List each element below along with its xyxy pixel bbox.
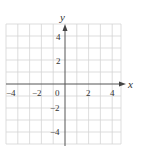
x-axis-label: x [127, 78, 133, 90]
x-axis-arrow-icon [119, 82, 126, 87]
x-tick-labels: −4 −2 0 2 4 [6, 88, 115, 98]
y-tick-label: −4 [50, 127, 60, 137]
x-tick-label: −4 [6, 88, 16, 98]
y-tick-label: −2 [50, 103, 60, 113]
x-tick-label: 0 [55, 88, 60, 98]
x-tick-label: −2 [32, 88, 42, 98]
y-axis-arrow-icon [63, 24, 68, 31]
coordinate-grid-chart: x y −4 −2 0 2 4 4 2 −2 −4 [0, 0, 142, 156]
y-axis-label: y [59, 11, 65, 23]
y-tick-label: 2 [56, 56, 61, 66]
y-tick-label: 4 [56, 32, 61, 42]
x-tick-label: 4 [110, 88, 115, 98]
x-tick-label: 2 [86, 88, 91, 98]
